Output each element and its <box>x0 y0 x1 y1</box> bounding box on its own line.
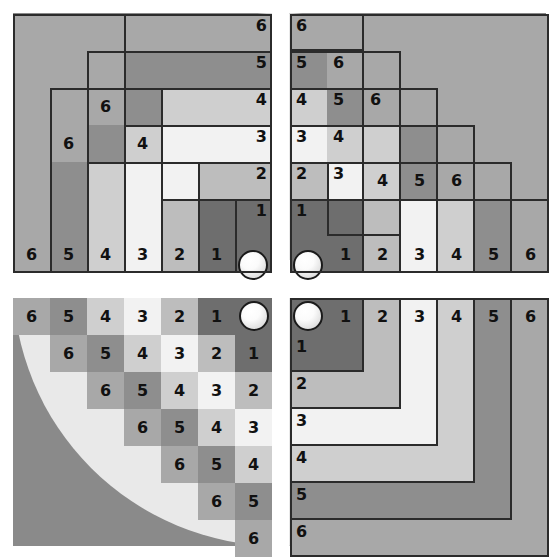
cell-distance-label: 2 <box>296 166 307 182</box>
grid-cell <box>475 409 512 446</box>
grid-cell: 5 <box>327 88 364 125</box>
grid-cell: 2 <box>290 372 327 409</box>
grid-cell <box>124 51 161 88</box>
cell-distance-label: 1 <box>340 309 351 325</box>
grid-cell <box>512 88 549 125</box>
grid-cell <box>475 51 512 88</box>
grid-cell <box>327 446 364 483</box>
cell-distance-label: 6 <box>256 18 267 34</box>
grid-cell <box>438 14 475 51</box>
grid-cell <box>13 14 50 51</box>
grid-cell <box>512 372 549 409</box>
cell-distance-label: 6 <box>26 247 37 263</box>
grid-cell <box>198 14 235 51</box>
grid-cell: 4 <box>327 125 364 162</box>
cell-distance-label: 4 <box>451 309 462 325</box>
grid-cell <box>161 88 198 125</box>
grid-cell <box>364 335 401 372</box>
cell-distance-label: 6 <box>296 18 307 34</box>
grid-cell: 3 <box>161 335 198 372</box>
grid-cell <box>512 199 549 236</box>
grid-cell: 5 <box>87 335 124 372</box>
quadrant-top-left: 656464321654321 <box>13 14 272 260</box>
grid-cell: 1 <box>198 236 235 273</box>
grid-cell <box>198 125 235 162</box>
grid-cell: 4 <box>198 409 235 446</box>
cell-distance-label: 5 <box>248 494 259 510</box>
grid-cell: 6 <box>364 88 401 125</box>
grid-cell: 3 <box>235 409 272 446</box>
cell-distance-label: 4 <box>333 129 344 145</box>
grid-cell: 2 <box>235 162 272 199</box>
grid-cell <box>401 14 438 51</box>
grid-cell <box>364 520 401 557</box>
grid-cell <box>364 125 401 162</box>
cell-distance-label: 1 <box>211 309 222 325</box>
grid-cell: 3 <box>401 236 438 273</box>
grid-cell <box>401 483 438 520</box>
grid-cell <box>161 51 198 88</box>
cell-distance-label: 4 <box>137 346 148 362</box>
cell-distance-label: 6 <box>211 494 222 510</box>
cell-distance-label: 2 <box>296 376 307 392</box>
grid-cell <box>475 162 512 199</box>
grid-cell: 1 <box>235 199 272 236</box>
cell-distance-label: 5 <box>174 420 185 436</box>
cell-distance-label: 3 <box>296 413 307 429</box>
grid-cell <box>290 236 327 273</box>
grid-cell <box>512 446 549 483</box>
grid-cell <box>475 372 512 409</box>
grid-cell <box>161 199 198 236</box>
grid-cell <box>87 199 124 236</box>
grid-cell <box>475 335 512 372</box>
grid-cell <box>438 409 475 446</box>
grid-cell: 1 <box>327 236 364 273</box>
grid-cell <box>475 520 512 557</box>
cell-distance-label: 5 <box>211 457 222 473</box>
grid-cell: 2 <box>161 298 198 335</box>
grid-cell: 2 <box>235 372 272 409</box>
grid-cell: 6 <box>327 51 364 88</box>
grid-cell <box>198 162 235 199</box>
cell-distance-label: 6 <box>525 247 536 263</box>
grid-cell: 1 <box>198 298 235 335</box>
grid-cell <box>235 236 272 273</box>
grid-cell: 1 <box>290 199 327 236</box>
grid-cell <box>13 125 50 162</box>
grid-cell <box>438 520 475 557</box>
cell-distance-label: 1 <box>256 203 267 219</box>
grid-cell: 2 <box>198 335 235 372</box>
cell-distance-label: 1 <box>340 247 351 263</box>
grid-cell: 6 <box>290 520 327 557</box>
grid-cell: 5 <box>235 483 272 520</box>
origin-marker-icon <box>238 250 268 280</box>
grid-cell <box>327 483 364 520</box>
cell-distance-label: 3 <box>248 420 259 436</box>
grid-cell <box>161 162 198 199</box>
grid-cell <box>364 483 401 520</box>
cell-distance-label: 1 <box>248 346 259 362</box>
origin-marker-icon <box>293 301 323 331</box>
grid-cell <box>438 51 475 88</box>
grid-cell: 5 <box>475 236 512 273</box>
grid-cell <box>198 88 235 125</box>
cell-distance-label: 2 <box>377 247 388 263</box>
grid-cell: 6 <box>438 162 475 199</box>
cell-distance-label: 3 <box>414 247 425 263</box>
grid-cell <box>438 88 475 125</box>
grid-cell <box>364 409 401 446</box>
cell-distance-label: 6 <box>370 92 381 108</box>
grid-cell <box>50 14 87 51</box>
cell-distance-label: 4 <box>100 309 111 325</box>
cell-distance-label: 3 <box>296 129 307 145</box>
grid-cell: 6 <box>124 409 161 446</box>
cell-distance-label: 2 <box>248 383 259 399</box>
cell-distance-label: 2 <box>174 309 185 325</box>
grid-cell: 6 <box>13 298 50 335</box>
cell-distance-label: 6 <box>100 99 111 115</box>
grid-cell <box>512 409 549 446</box>
grid-cell <box>512 125 549 162</box>
grid-cell <box>475 14 512 51</box>
cell-distance-label: 5 <box>100 346 111 362</box>
grid-cell <box>438 125 475 162</box>
